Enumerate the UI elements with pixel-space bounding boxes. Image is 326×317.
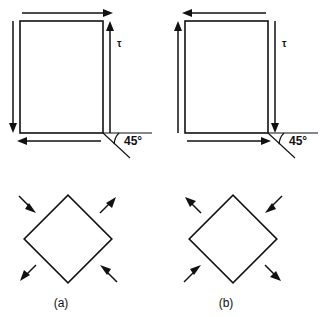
panel-b-right-shear-arrow	[271, 21, 279, 133]
panel-b-principal-element: (b)	[184, 195, 282, 310]
panel-b-bottom-shear-arrow	[187, 137, 271, 145]
panel-a-arrow-bottom-left	[20, 265, 36, 281]
panel-b-diamond	[189, 195, 277, 283]
panel-a-principal-element: (a)	[19, 195, 117, 310]
panel-a-arrow-top-right	[100, 197, 116, 213]
panel-a-top-shear-arrow	[22, 9, 113, 17]
figure-container: τ 45° τ	[0, 0, 326, 317]
panel-b-rectangle	[185, 21, 268, 133]
panel-b-caption: (b)	[219, 296, 234, 310]
panel-b-shear-label: τ	[282, 38, 287, 49]
panel-b-left-shear-arrow	[174, 21, 182, 133]
panel-a-diamond	[24, 195, 112, 283]
panel-b-top-shear-arrow	[182, 9, 266, 17]
panel-a-rectangle	[20, 21, 103, 133]
panel-a-right-shear-arrow	[106, 21, 114, 133]
panel-a-shear-label: τ	[117, 38, 122, 49]
panel-a-left-shear-arrow	[9, 21, 17, 133]
panel-b-arrow-bottom-right	[265, 265, 281, 281]
panel-a-shear-element: τ 45°	[9, 9, 152, 158]
panel-b-angle-label: 45°	[289, 134, 307, 148]
panel-a-arrow-top-left	[19, 196, 36, 213]
mechanics-diagram: τ 45° τ	[0, 0, 326, 317]
panel-a-caption: (a)	[54, 296, 69, 310]
panel-a-arrow-bottom-right	[100, 265, 117, 282]
panel-b-arrow-top-left	[185, 197, 201, 213]
panel-b-arrow-bottom-left	[184, 265, 201, 282]
panel-b-arrow-top-right	[265, 196, 282, 213]
panel-a-angle-label: 45°	[124, 134, 142, 148]
panel-a-bottom-shear-arrow	[17, 137, 101, 145]
panel-b-shear-element: τ 45°	[174, 9, 318, 158]
